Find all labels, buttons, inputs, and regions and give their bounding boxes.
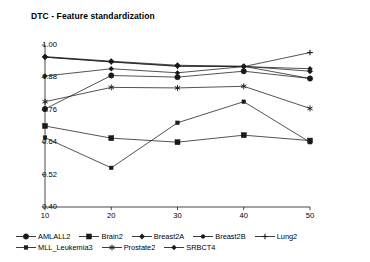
legend-item[interactable]: AMLALL2 [16, 232, 70, 241]
chart-container: DTC - Feature standardization 1.000.880.… [0, 0, 370, 262]
legend-label: Lung2 [277, 232, 298, 241]
chart-legend: AMLALL2Brain2Breast2ABreast2BLung2 MLL_L… [16, 231, 364, 253]
x-axis-tick-label: 10 [41, 212, 49, 220]
legend-label: Brain2 [101, 232, 122, 241]
plot-area [45, 45, 310, 207]
legend-label: MLL_Leukemia3 [38, 243, 93, 252]
data-point [109, 166, 113, 170]
legend-item[interactable]: SRBCT4 [164, 243, 215, 252]
data-point [241, 133, 246, 138]
data-point [175, 140, 180, 145]
legend-row: AMLALL2Brain2Breast2ABreast2BLung2 [16, 231, 364, 242]
data-point [109, 136, 114, 141]
legend-marker [24, 246, 28, 250]
data-point [175, 70, 180, 75]
filled-circle-icon [16, 232, 36, 241]
plus-icon [255, 232, 275, 241]
legend-marker [139, 234, 144, 239]
series-lung2 [42, 50, 313, 70]
legend-label: Breast2A [154, 232, 184, 241]
legend-item[interactable]: Breast2B [193, 232, 245, 241]
data-point [109, 73, 114, 78]
star-icon [102, 243, 122, 252]
data-point [241, 64, 246, 69]
data-point [43, 136, 47, 140]
plot-svg [45, 45, 310, 207]
legend-item[interactable]: Brain2 [79, 232, 122, 241]
filled-diamond-icon [132, 232, 152, 241]
data-point [308, 140, 312, 144]
legend-item[interactable]: Prostate2 [102, 243, 156, 252]
legend-marker [201, 235, 205, 239]
series-brain2 [43, 124, 313, 145]
data-point [43, 124, 48, 129]
legend-label: SRBCT4 [186, 243, 215, 252]
filled-circle-small-icon [193, 232, 213, 241]
x-axis-tick-label: 30 [173, 212, 181, 220]
legend-label: Prostate2 [124, 243, 156, 252]
legend-item[interactable]: Breast2A [132, 232, 184, 241]
data-point [176, 121, 180, 125]
legend-marker [87, 234, 92, 239]
x-axis-tick-label: 20 [107, 212, 115, 220]
legend-label: AMLALL2 [38, 232, 70, 241]
legend-item[interactable]: MLL_Leukemia3 [16, 243, 93, 252]
data-series [42, 50, 313, 170]
legend-item[interactable]: Lung2 [255, 232, 298, 241]
data-point [42, 106, 47, 111]
diamond-icon [164, 243, 184, 252]
chart-title: DTC - Feature standardization [31, 11, 155, 21]
legend-row: MLL_Leukemia3Prostate2SRBCT4 [16, 242, 364, 253]
series-line [45, 102, 310, 168]
series-prostate2 [42, 83, 312, 111]
filled-square-icon [79, 232, 99, 241]
data-point [242, 100, 246, 104]
x-axis-tick-label: 40 [240, 212, 248, 220]
axes [42, 45, 310, 210]
data-point [109, 66, 114, 71]
legend-marker [172, 245, 177, 250]
x-axis-tick-label: 50 [306, 212, 314, 220]
legend-marker [23, 234, 28, 239]
legend-label: Breast2B [215, 232, 245, 241]
filled-square-small-icon [16, 243, 36, 252]
series-mll_leukemia3 [43, 100, 312, 170]
data-point [308, 77, 312, 81]
